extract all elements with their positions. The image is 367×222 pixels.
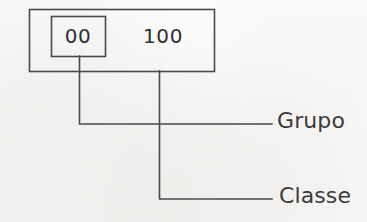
classe-leader-line xyxy=(160,71,273,199)
classification-code-diagram: 00 100 Grupo Classe xyxy=(0,0,367,222)
grupo-leader-line xyxy=(80,56,273,124)
callout-label-grupo: Grupo xyxy=(277,110,345,132)
callout-label-classe: Classe xyxy=(279,185,351,207)
class-digits-text: 100 xyxy=(120,16,206,56)
group-digits-text: 00 xyxy=(51,16,105,56)
